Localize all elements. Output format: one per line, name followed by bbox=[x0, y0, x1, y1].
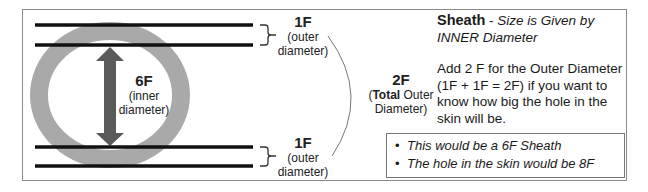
total-outer-label: 2F (Total Outer Diameter) bbox=[365, 71, 437, 116]
inner-diameter-label: 6F (inner diameter) bbox=[118, 72, 170, 117]
sheath-title: Sheath - Size is Given by INNER Diameter bbox=[437, 12, 627, 46]
summary-item: •The hole in the skin would be 8F bbox=[395, 155, 624, 173]
bottom-outer-label: 1F (outer diameter) bbox=[270, 134, 336, 179]
explanation-paragraph: Add 2 F for the Outer Diameter (1F + 1F … bbox=[437, 61, 627, 127]
top-outer-label: 1F (outer diameter) bbox=[270, 13, 336, 58]
bullet-icon: • bbox=[395, 137, 407, 155]
summary-box: •This would be a 6F Sheath •The hole in … bbox=[386, 133, 625, 178]
bullet-icon: • bbox=[395, 155, 407, 173]
summary-item: •This would be a 6F Sheath bbox=[395, 137, 624, 155]
